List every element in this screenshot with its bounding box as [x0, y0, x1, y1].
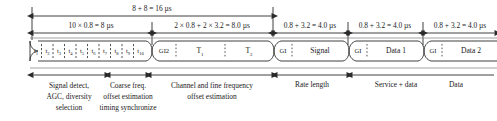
dimension-label-signal: 0.8 + 3.2 = 4.0 µs: [284, 21, 336, 30]
short-training-separators: [42, 44, 134, 58]
annotation-coarse-freq-line2: offset estimation: [100, 91, 157, 102]
annotation-channel-estimation-line2: offset estimation: [171, 91, 253, 102]
symbol-t4: t4: [68, 47, 72, 56]
frame-rails: [30, 38, 497, 68]
block-label-gi-data1: GI: [355, 47, 362, 54]
block-label-gi-signal: GI: [280, 47, 287, 54]
annotation-signal-detect: Signal detect, AGC, diversity selection: [46, 80, 91, 113]
block-label-t1: T1: [196, 46, 203, 57]
annotation-rate-length: Rate length: [295, 80, 329, 89]
annotation-signal-detect-line3: selection: [46, 102, 91, 113]
symbol-t10: t10: [137, 47, 143, 56]
annotation-coarse-freq-line1: Coarse freq.: [100, 80, 157, 91]
symbol-t3: t3: [57, 47, 61, 56]
dimension-label-short-training: 10 × 0.8 = 8 µs: [68, 21, 113, 30]
annotation-service-data: Service + data: [375, 80, 417, 89]
annotation-coarse-freq: Coarse freq. offset estimation timing sy…: [100, 80, 157, 113]
block-long-training: [152, 41, 274, 61]
symbol-t9: t9: [126, 47, 130, 56]
dimension-label-total: 8 + 8 = 16 µs: [132, 4, 172, 13]
symbol-t7: t7: [103, 47, 107, 56]
symbol-t1: t1: [34, 47, 38, 56]
dimension-label-long-training: 2 × 0.8 + 2 × 3.2 = 8.0 µs: [174, 21, 250, 30]
symbol-t8: t8: [114, 47, 118, 56]
annotation-channel-estimation: Channel and fine frequency offset estima…: [171, 80, 253, 102]
annotation-data: Data: [449, 80, 463, 89]
annotation-coarse-freq-line3: timing synchronize: [100, 102, 157, 113]
dimension-label-data2: 0.8 + 3.2 = 4.0 µs: [434, 21, 486, 30]
dimension-label-data1: 0.8 + 3.2 = 4.0 µs: [359, 21, 411, 30]
block-label-gi-data2: GI: [430, 47, 437, 54]
annotation-signal-detect-line2: AGC, diversity: [46, 91, 91, 102]
block-label-gi2: GI2: [159, 47, 169, 54]
block-label-data1: Data 1: [386, 46, 406, 55]
symbol-t5: t5: [80, 47, 84, 56]
symbol-t2: t2: [45, 47, 49, 56]
block-label-t2: T2: [245, 46, 252, 57]
annotation-channel-estimation-line1: Channel and fine frequency: [171, 80, 253, 91]
symbol-t6: t6: [91, 47, 95, 56]
block-label-signal: Signal: [310, 46, 329, 55]
annotation-signal-detect-line1: Signal detect,: [46, 80, 91, 91]
block-label-data2: Data 2: [461, 46, 481, 55]
